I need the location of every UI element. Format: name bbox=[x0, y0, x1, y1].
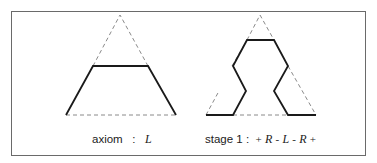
stage1-guide-left bbox=[206, 91, 219, 115]
stage1-guide-right bbox=[288, 66, 316, 115]
stage1-curve bbox=[206, 40, 316, 115]
diagram-canvas bbox=[0, 0, 377, 163]
axiom-caption-label: axiom bbox=[92, 133, 123, 145]
formula-token: L bbox=[282, 132, 289, 146]
axiom-caption-separator: : bbox=[132, 133, 135, 145]
axiom-caption-formula: L bbox=[145, 132, 152, 146]
stage1-caption-label: stage 1 bbox=[205, 133, 243, 145]
stage1-panel bbox=[206, 15, 316, 115]
axiom-curve bbox=[66, 66, 176, 115]
formula-token: R bbox=[299, 132, 306, 146]
formula-token: + bbox=[256, 133, 262, 145]
formula-token: + bbox=[310, 133, 316, 145]
formula-token: - bbox=[292, 133, 296, 145]
stage1-caption-separator: : bbox=[246, 133, 249, 145]
axiom-caption: axiom : L bbox=[92, 132, 152, 147]
formula-token: R bbox=[265, 132, 272, 146]
axiom-panel bbox=[66, 15, 176, 115]
stage1-caption: stage 1 : + R - L - R + bbox=[205, 132, 316, 147]
axiom-guide-triangle bbox=[93, 15, 148, 66]
formula-token: - bbox=[276, 133, 280, 145]
stage1-guide-apex bbox=[247, 15, 274, 40]
